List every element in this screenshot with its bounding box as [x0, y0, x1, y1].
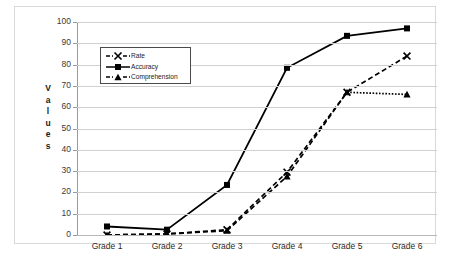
legend-key-accuracy-square-icon [105, 62, 131, 72]
x-axis-tick-labels: Grade 1Grade 2Grade 3Grade 4Grade 5Grade… [77, 240, 437, 254]
gridline [77, 43, 437, 44]
y-axis-tick-label: 10 [37, 209, 71, 218]
y-axis-tick-label: 60 [37, 102, 71, 111]
legend-key-comprehension-triangle-icon [105, 72, 131, 82]
data-point-marker [403, 91, 410, 98]
x-axis-tick-label-5: Grade 5 [317, 240, 377, 254]
y-axis-tick-label: 90 [37, 38, 71, 47]
legend-label-accuracy: Accuracy [131, 62, 158, 72]
y-axis-tick-label: 50 [37, 124, 71, 133]
data-point-marker [104, 223, 110, 229]
y-axis-tick-label: 40 [37, 145, 71, 154]
gridline [77, 235, 437, 236]
gridline [77, 192, 437, 193]
data-point-marker [344, 33, 350, 39]
x-axis-tick-label-2: Grade 2 [137, 240, 197, 254]
gridline [77, 150, 437, 151]
chart-frame: V a l u e s 0102030405060708090100 Rate [14, 6, 436, 244]
data-point-marker [404, 25, 410, 31]
gridline [77, 86, 437, 87]
gridline [77, 214, 437, 215]
y-axis-tick-label: 100 [37, 17, 71, 26]
x-axis-tick-label-3: Grade 3 [197, 240, 257, 254]
legend-item-rate: Rate [105, 51, 190, 62]
y-axis-tick-label: 0 [37, 230, 71, 239]
gridline [77, 129, 437, 130]
x-axis-tick-label-1: Grade 1 [77, 240, 137, 254]
legend-item-accuracy: Accuracy [105, 62, 190, 73]
data-point-marker [404, 53, 411, 60]
legend-key-rate-x-icon [105, 51, 131, 61]
y-axis-tick-label: 70 [37, 81, 71, 90]
y-axis-tick-label: 20 [37, 187, 71, 196]
legend-label-comprehension: Comprehension [131, 72, 178, 82]
gridline [77, 22, 437, 23]
gridline [77, 107, 437, 108]
y-axis-tick-label: 80 [37, 60, 71, 69]
chart-legend: Rate Accuracy Comprehension [100, 47, 191, 84]
legend-label-rate: Rate [131, 51, 145, 61]
series-line-comprehension-tail [347, 92, 407, 94]
y-axis-tick-label: 30 [37, 166, 71, 175]
legend-item-comprehension: Comprehension [105, 72, 190, 83]
y-axis-title: V a l u e s [41, 83, 55, 152]
data-point-marker [284, 65, 290, 71]
x-axis-tick-label-6: Grade 6 [377, 240, 437, 254]
x-axis-tick-label-4: Grade 4 [257, 240, 317, 254]
data-point-marker [224, 182, 230, 188]
gridline [77, 171, 437, 172]
